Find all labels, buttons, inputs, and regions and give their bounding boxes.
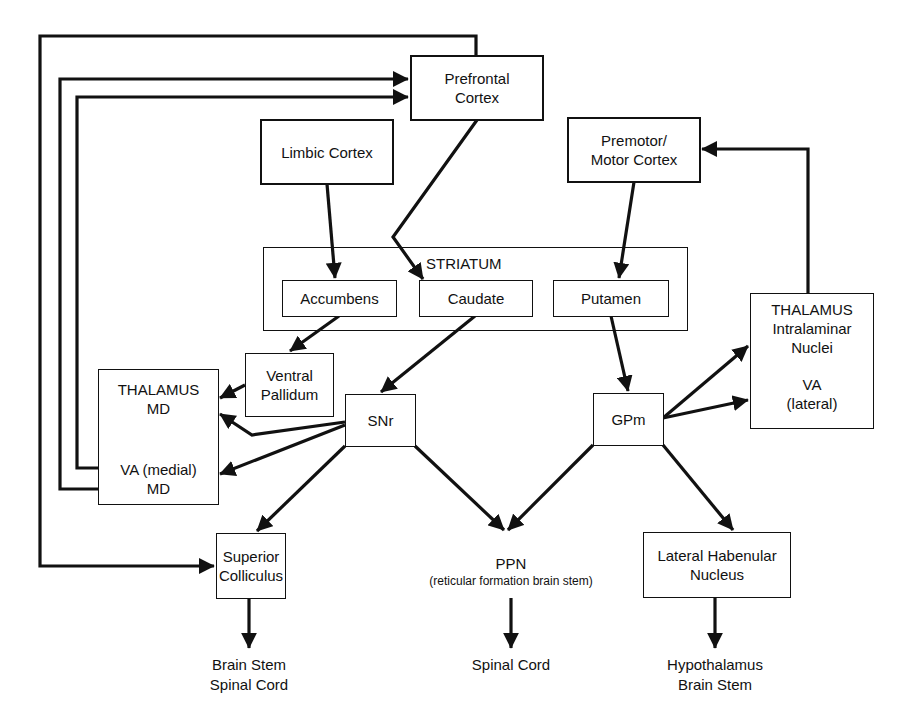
node-label: VA bbox=[787, 375, 838, 394]
arrow-snr-to-sc bbox=[257, 446, 345, 531]
thalamus-md-top: THALAMUS MD bbox=[118, 380, 200, 418]
thalamus-md-bottom: VA (medial) MD bbox=[120, 460, 196, 498]
node-prefrontal-cortex: Prefrontal Cortex bbox=[410, 55, 544, 121]
node-gpm: GPm bbox=[593, 393, 664, 446]
node-lateral-habenular-nucleus: Lateral Habenular Nucleus bbox=[643, 532, 791, 598]
node-label: MD bbox=[120, 479, 196, 498]
node-label: Limbic Cortex bbox=[281, 143, 373, 162]
arrow-intralaminar-to-premotor bbox=[702, 149, 808, 293]
output-brain-stem-spinal-cord: Brain Stem Spinal Cord bbox=[189, 655, 309, 695]
thalamus-intralaminar-bottom: VA (lateral) bbox=[787, 375, 838, 413]
thalamus-intralaminar-top: THALAMUS Intralaminar Nuclei bbox=[771, 300, 853, 357]
node-ppn: PPN (reticular formation brain stem) bbox=[411, 554, 611, 589]
node-snr: SNr bbox=[345, 394, 416, 447]
arrow-gpm-to-lhb bbox=[663, 445, 733, 530]
node-sublabel: (reticular formation brain stem) bbox=[411, 574, 611, 589]
arrow-gpm-to-ppn bbox=[508, 445, 593, 530]
node-label: SNr bbox=[368, 411, 394, 430]
node-thalamus-intralaminar: THALAMUS Intralaminar Nuclei VA (lateral… bbox=[750, 293, 874, 429]
node-accumbens: Accumbens bbox=[282, 280, 397, 317]
node-label: Colliculus bbox=[219, 566, 283, 585]
node-ventral-pallidum: Ventral Pallidum bbox=[245, 353, 334, 417]
arrow-snr-to-ppn bbox=[415, 446, 504, 530]
node-label: Motor Cortex bbox=[591, 150, 678, 169]
node-caudate: Caudate bbox=[419, 280, 533, 317]
node-label: Premotor/ bbox=[601, 131, 667, 150]
node-label: GPm bbox=[611, 410, 645, 429]
node-label: Cortex bbox=[455, 88, 499, 107]
striatum-title: STRIATUM bbox=[426, 255, 502, 272]
node-premotor-cortex: Premotor/ Motor Cortex bbox=[567, 117, 701, 183]
diagram-canvas: Prefrontal Cortex Limbic Cortex Premotor… bbox=[0, 0, 897, 724]
node-label: Lateral Habenular bbox=[657, 546, 776, 565]
node-limbic-cortex: Limbic Cortex bbox=[260, 119, 394, 185]
output-label: Spinal Cord bbox=[189, 675, 309, 695]
node-label: Superior bbox=[223, 547, 280, 566]
output-hypothalamus-brain-stem: Hypothalamus Brain Stem bbox=[655, 655, 775, 695]
node-label: Caudate bbox=[448, 289, 505, 308]
node-label: PPN bbox=[411, 554, 611, 574]
node-label: (lateral) bbox=[787, 394, 838, 413]
output-label: Spinal Cord bbox=[451, 655, 571, 675]
output-label: Hypothalamus bbox=[655, 655, 775, 675]
output-label: Brain Stem bbox=[189, 655, 309, 675]
node-superior-colliculus: Superior Colliculus bbox=[216, 533, 286, 599]
node-putamen: Putamen bbox=[553, 280, 669, 317]
node-thalamus-md: THALAMUS MD VA (medial) MD bbox=[98, 369, 219, 505]
node-label: Pallidum bbox=[261, 385, 319, 404]
node-label: THALAMUS bbox=[771, 300, 853, 319]
node-label: Nucleus bbox=[690, 565, 744, 584]
node-label: Putamen bbox=[581, 289, 641, 308]
node-label: VA (medial) bbox=[120, 460, 196, 479]
arrow-vp-to-thalamus bbox=[220, 385, 245, 398]
arrow-gpm-to-intralaminar bbox=[663, 346, 748, 418]
node-label: Ventral bbox=[266, 366, 313, 385]
node-label: Accumbens bbox=[300, 289, 378, 308]
node-label: Intralaminar bbox=[771, 319, 853, 338]
output-label: Brain Stem bbox=[655, 675, 775, 695]
node-label: Nuclei bbox=[771, 338, 853, 357]
output-spinal-cord: Spinal Cord bbox=[451, 655, 571, 675]
node-label: THALAMUS bbox=[118, 380, 200, 399]
node-label: MD bbox=[118, 399, 200, 418]
node-label: Prefrontal bbox=[444, 69, 509, 88]
